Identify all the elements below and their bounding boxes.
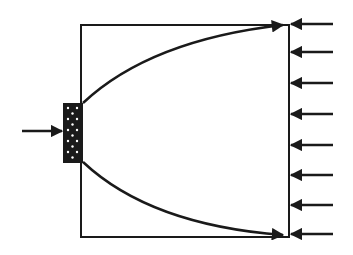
- dot: [67, 118, 69, 120]
- dot: [76, 118, 78, 120]
- upper-ray: [83, 25, 283, 103]
- region-box: [81, 25, 289, 237]
- diagram-svg: [0, 0, 353, 255]
- dot: [76, 140, 78, 142]
- dot: [67, 151, 69, 153]
- dot: [71, 112, 73, 114]
- source-block: [63, 103, 83, 163]
- lower-ray: [83, 162, 283, 235]
- diagram-canvas: [0, 0, 353, 255]
- box-outline: [81, 25, 289, 237]
- dot: [67, 140, 69, 142]
- source-rect: [63, 103, 83, 163]
- dot: [71, 156, 73, 158]
- dot: [76, 151, 78, 153]
- dot: [71, 134, 73, 136]
- dot: [67, 107, 69, 109]
- dot: [76, 129, 78, 131]
- dot: [71, 123, 73, 125]
- dot: [71, 145, 73, 147]
- incoming-arrows: [291, 24, 333, 234]
- ray-curves: [83, 25, 283, 235]
- dot: [76, 107, 78, 109]
- dot: [67, 129, 69, 131]
